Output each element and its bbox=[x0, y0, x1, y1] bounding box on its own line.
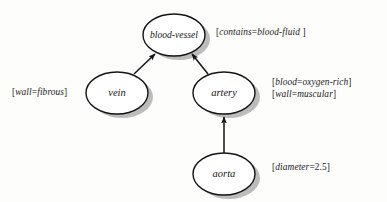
bracket-close: ] bbox=[327, 162, 330, 172]
annotation-line: [contains=blood-fluid ] bbox=[216, 26, 306, 38]
node-artery[interactable]: artery bbox=[193, 72, 255, 114]
bracket-close: ] bbox=[348, 77, 351, 87]
node-vein[interactable]: vein bbox=[86, 72, 148, 114]
bracket-close: ] bbox=[333, 89, 336, 99]
annotation-artery-attributes: [blood=oxygen-rich] [wall=muscular] bbox=[272, 76, 352, 100]
edge-vein-to-blood-vessel bbox=[134, 54, 155, 74]
annotation-line: [diameter=2.5] bbox=[272, 161, 330, 173]
attribute-key: contains bbox=[219, 27, 252, 37]
diagram-canvas: blood-vessel vein artery aorta [contains… bbox=[0, 0, 387, 202]
bracket-close: ] bbox=[64, 87, 67, 97]
attribute-key: wall bbox=[275, 89, 292, 99]
node-label-artery: artery bbox=[211, 87, 237, 98]
attribute-value: oxygen-rich bbox=[302, 77, 348, 87]
attribute-value: blood-fluid bbox=[257, 27, 300, 37]
annotation-line: [wall=fibrous] bbox=[12, 86, 67, 98]
attribute-value: muscular bbox=[297, 89, 333, 99]
annotation-blood-vessel-attributes: [contains=blood-fluid ] bbox=[216, 26, 306, 38]
annotation-line: [blood=oxygen-rich] bbox=[272, 76, 352, 88]
node-aorta[interactable]: aorta bbox=[193, 153, 255, 195]
annotation-vein-attributes: [wall=fibrous] bbox=[12, 86, 67, 98]
attribute-value: 2.5 bbox=[315, 162, 327, 172]
attribute-key: diameter bbox=[275, 162, 309, 172]
attribute-key: wall bbox=[15, 87, 32, 97]
node-label-blood-vessel: blood-vessel bbox=[150, 29, 198, 40]
node-label-vein: vein bbox=[108, 87, 126, 98]
node-blood-vessel[interactable]: blood-vessel bbox=[143, 14, 205, 56]
node-label-aorta: aorta bbox=[213, 168, 236, 179]
annotation-aorta-attributes: [diameter=2.5] bbox=[272, 161, 330, 173]
attribute-key: blood bbox=[275, 77, 297, 87]
bracket-close: ] bbox=[300, 27, 306, 37]
edge-artery-to-blood-vessel bbox=[192, 54, 208, 74]
annotation-line: [wall=muscular] bbox=[272, 88, 352, 100]
attribute-value: fibrous bbox=[37, 87, 64, 97]
